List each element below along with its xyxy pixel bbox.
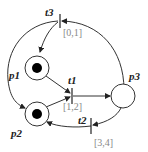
label-p2: p2 bbox=[10, 127, 23, 139]
token-icon bbox=[32, 109, 42, 119]
arc-p1-t1 bbox=[46, 76, 70, 93]
place-p2 bbox=[25, 102, 49, 126]
label-p3: p3 bbox=[128, 70, 141, 82]
label-t1: t1 bbox=[68, 74, 77, 86]
petri-net-diagram: p1 p2 p3 t1 t2 t3 [1,2] [3,4] [0,1] bbox=[0, 0, 148, 152]
interval-t2: [3,4] bbox=[94, 137, 113, 148]
label-t2: t2 bbox=[78, 114, 87, 126]
label-t3: t3 bbox=[45, 6, 54, 18]
place-p3 bbox=[111, 84, 135, 108]
interval-t3: [0,1] bbox=[63, 27, 82, 38]
arc-p3-t2 bbox=[93, 108, 121, 125]
label-p1: p1 bbox=[8, 69, 20, 81]
arc-t3-p1 bbox=[40, 22, 58, 52]
place-p1 bbox=[25, 56, 49, 80]
interval-t1: [1,2] bbox=[63, 101, 82, 112]
token-icon bbox=[32, 63, 42, 73]
